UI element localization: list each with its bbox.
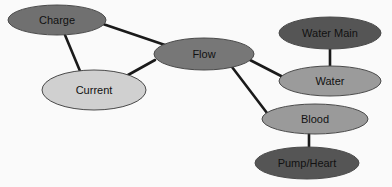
- node-label: Charge: [39, 14, 75, 26]
- node-label: Flow: [192, 48, 215, 60]
- edge-charge-flow: [103, 24, 165, 45]
- node-label: Blood: [301, 113, 329, 125]
- node-pump-heart: Pump/Heart: [255, 147, 359, 179]
- diagram-canvas: ChargeCurrentFlowWater MainWaterBloodPum…: [0, 0, 392, 187]
- node-blood: Blood: [262, 104, 368, 134]
- edge-flow-blood: [232, 67, 267, 113]
- node-water: Water: [279, 66, 381, 96]
- node-water-main: Water Main: [279, 17, 381, 49]
- nodes-layer: ChargeCurrentFlowWater MainWaterBloodPum…: [8, 5, 381, 179]
- edge-flow-water: [250, 60, 283, 77]
- node-label: Water Main: [302, 27, 358, 39]
- edge-current-flow: [128, 60, 155, 75]
- concept-map-diagram: ChargeCurrentFlowWater MainWaterBloodPum…: [0, 0, 392, 187]
- node-label: Water: [316, 75, 345, 87]
- node-label: Current: [76, 84, 113, 96]
- edge-charge-current: [65, 35, 80, 71]
- node-charge: Charge: [8, 5, 106, 35]
- node-flow: Flow: [154, 38, 254, 70]
- node-label: Pump/Heart: [278, 157, 337, 169]
- node-current: Current: [42, 70, 146, 110]
